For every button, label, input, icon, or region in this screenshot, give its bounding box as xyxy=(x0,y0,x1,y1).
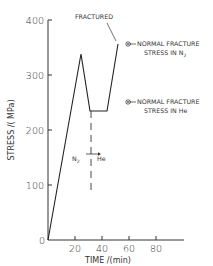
x-tick-80: 80 xyxy=(150,243,162,254)
y-tick-300: 300 xyxy=(26,70,44,81)
switch-to-label: He xyxy=(97,155,106,162)
he-fracture-label-line1: NORMAL FRACTURE xyxy=(137,98,199,105)
x-tick-40: 40 xyxy=(96,243,108,254)
y-tick-0: 0 xyxy=(39,235,45,246)
x-tick-20: 20 xyxy=(69,243,81,254)
y-axis-title: STRESS /( MPa) xyxy=(7,99,16,160)
y-tick-100: 100 xyxy=(26,180,44,191)
stress-curve xyxy=(48,44,118,240)
x-axis-title: TIME /(min) xyxy=(84,256,131,265)
he-fracture-marker xyxy=(126,100,136,104)
x-tick-60: 60 xyxy=(123,243,135,254)
stress-time-chart: 400 300 200 100 0 20 40 60 80 TIME /(min… xyxy=(0,0,213,266)
n2-fracture-marker xyxy=(126,42,136,46)
fractured-label: FRACTURED xyxy=(75,13,113,20)
n2-fracture-label-line2: STRESS IN N2 xyxy=(144,49,186,58)
fractured-leader xyxy=(107,23,116,41)
y-tick-400: 400 xyxy=(26,15,44,26)
n2-fracture-label-line1: NORMAL FRACTURE xyxy=(137,40,199,47)
he-fracture-label-line2: STRESS IN He xyxy=(144,107,187,114)
switch-from-label: N2 xyxy=(72,155,80,164)
y-tick-200: 200 xyxy=(26,125,44,136)
